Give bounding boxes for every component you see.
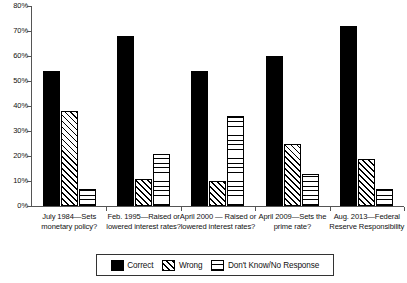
- y-tick-label: 20%: [0, 152, 28, 160]
- y-tick-label: 50%: [0, 77, 28, 85]
- y-tick-mark: [27, 56, 31, 57]
- bar-group: [181, 6, 255, 206]
- y-tick-mark: [27, 31, 31, 32]
- plot-area: 0%10%20%30%40%50%60%70%80%: [0, 6, 407, 211]
- legend-label: Correct: [127, 261, 153, 270]
- bar-correct: [340, 26, 357, 206]
- x-axis-label: April 2009—Sets the prime rate?: [252, 212, 332, 232]
- x-axis-category-labels: July 1984—Sets monetary policy?Feb. 1995…: [32, 212, 404, 254]
- bar-correct: [266, 56, 283, 206]
- y-tick-label: 80%: [0, 2, 28, 10]
- x-axis-label: Feb. 1995—Raised or lowered interest rat…: [103, 212, 183, 232]
- y-axis: 0%10%20%30%40%50%60%70%80%: [0, 6, 28, 206]
- x-axis-label: April 2000 — Raised or lowered interest …: [178, 212, 258, 232]
- bar-group: [106, 6, 180, 206]
- bar-don-t-know-no-response: [227, 116, 244, 206]
- y-tick-mark: [27, 131, 31, 132]
- bar-wrong: [358, 159, 375, 207]
- bar-don-t-know-no-response: [302, 174, 319, 207]
- y-tick-label: 10%: [0, 177, 28, 185]
- y-tick-mark: [27, 6, 31, 7]
- x-axis-label: July 1984—Sets monetary policy?: [29, 212, 109, 232]
- x-tick-mark: [255, 207, 256, 211]
- bars-container: [32, 6, 404, 206]
- y-tick-mark: [27, 181, 31, 182]
- x-tick-mark: [404, 207, 405, 211]
- y-tick-label: 70%: [0, 27, 28, 35]
- bar-group: [330, 6, 404, 206]
- legend-label: Don't Know/No Response: [228, 261, 319, 270]
- bar-don-t-know-no-response: [153, 154, 170, 207]
- y-tick-mark: [27, 81, 31, 82]
- x-tick-mark: [181, 207, 182, 211]
- y-tick-label: 0%: [0, 202, 28, 210]
- bar-don-t-know-no-response: [79, 189, 96, 207]
- legend-swatch-don-t-know-no-response: [211, 260, 224, 271]
- x-tick-mark: [330, 207, 331, 211]
- y-tick-mark: [27, 156, 31, 157]
- x-axis-label: Aug. 2013—Federal Reserve Responsibility: [327, 212, 407, 232]
- bar-correct: [117, 36, 134, 206]
- chart-legend: CorrectWrongDon't Know/No Response: [96, 254, 334, 276]
- x-tick-mark: [106, 207, 107, 211]
- y-tick-mark: [27, 206, 31, 207]
- y-tick-label: 60%: [0, 52, 28, 60]
- bar-wrong: [284, 144, 301, 207]
- legend-swatch-correct: [111, 260, 124, 271]
- bar-wrong: [209, 181, 226, 206]
- bar-group: [255, 6, 329, 206]
- legend-swatch-wrong: [162, 260, 175, 271]
- legend-item: Correct: [111, 260, 154, 271]
- bar-correct: [43, 71, 60, 206]
- bar-chart: 0%10%20%30%40%50%60%70%80% July 1984—Set…: [0, 0, 407, 283]
- bar-wrong: [61, 111, 78, 206]
- y-tick-label: 30%: [0, 127, 28, 135]
- y-tick-mark: [27, 106, 31, 107]
- legend-label: Wrong: [179, 261, 202, 270]
- bar-wrong: [135, 179, 152, 207]
- legend-item: Don't Know/No Response: [211, 260, 319, 271]
- x-axis-line: [31, 206, 404, 207]
- legend-item: Wrong: [162, 260, 202, 271]
- y-tick-label: 40%: [0, 102, 28, 110]
- bar-group: [32, 6, 106, 206]
- bar-don-t-know-no-response: [376, 189, 393, 207]
- bar-correct: [191, 71, 208, 206]
